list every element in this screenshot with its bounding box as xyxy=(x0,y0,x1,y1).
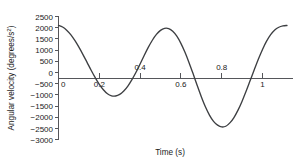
y-tick-label: 1000 xyxy=(35,46,53,55)
y-tick-label: −1000 xyxy=(31,91,54,100)
y-tick-label: −2000 xyxy=(31,113,54,122)
x-axis-ticks xyxy=(99,73,262,79)
x-axis-title: Time (s) xyxy=(155,148,185,157)
x-axis-tick-labels: 0 0.2 0.4 0.6 0.8 1 xyxy=(61,63,265,89)
y-axis-title-main: Angular velocity (degrees/s xyxy=(7,32,16,131)
y-tick-label: −3000 xyxy=(31,136,54,145)
y-axis-title: Angular velocity (degrees/s2) xyxy=(5,25,16,130)
x-tick-label: 0.8 xyxy=(216,63,228,72)
angular-velocity-curve xyxy=(59,25,287,127)
y-tick-label: 1500 xyxy=(35,35,53,44)
angular-velocity-line-chart: 2500 2000 1500 1000 500 0 −500 −1000 −15… xyxy=(0,0,300,163)
x-tick-label: 0.6 xyxy=(175,80,187,89)
y-axis-title-close: ) xyxy=(7,25,16,28)
x-tick-label: 1 xyxy=(260,80,265,89)
y-tick-label: 0 xyxy=(49,69,54,78)
y-tick-label: −500 xyxy=(35,80,54,89)
x-tick-label: 0 xyxy=(61,80,66,89)
y-tick-label: 500 xyxy=(40,57,54,66)
y-axis-tick-labels: 2500 2000 1500 1000 500 0 −500 −1000 −15… xyxy=(31,13,54,145)
y-tick-label: −2500 xyxy=(31,125,54,134)
chart-figure: 2500 2000 1500 1000 500 0 −500 −1000 −15… xyxy=(0,0,300,163)
y-tick-label: 2000 xyxy=(35,24,53,33)
y-axis-ticks xyxy=(55,17,59,140)
y-tick-label: 2500 xyxy=(35,13,53,22)
y-tick-label: −1500 xyxy=(31,102,54,111)
